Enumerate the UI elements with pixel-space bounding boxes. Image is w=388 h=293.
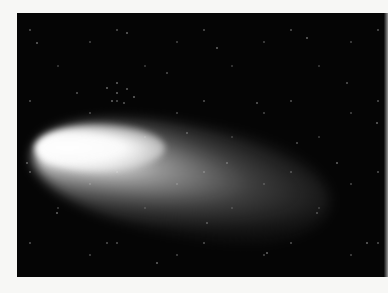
comet-nucleus: [35, 125, 165, 171]
comet-photograph: [17, 13, 388, 277]
page-edge-shadow: [384, 13, 388, 277]
star-cluster: [102, 83, 142, 113]
